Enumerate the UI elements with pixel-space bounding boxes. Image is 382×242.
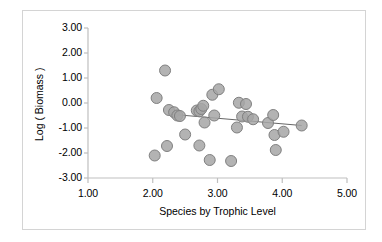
x-tick-label: 5.00 xyxy=(322,187,372,199)
y-tick-label: -2.00 xyxy=(40,146,82,158)
y-tick-label: 1.00 xyxy=(40,71,82,83)
x-tick-label: 2.00 xyxy=(128,187,178,199)
y-tick-label: 2.00 xyxy=(40,46,82,58)
data-points xyxy=(149,65,307,167)
y-tick-label: -3.00 xyxy=(40,171,82,183)
y-tick-label: -1.00 xyxy=(40,121,82,133)
x-axis-label: Species by Trophic Level xyxy=(128,205,308,217)
y-axis-label: Log ( Biomass ) xyxy=(33,67,45,141)
x-tick-label: 1.00 xyxy=(63,187,113,199)
x-tick-label: 4.00 xyxy=(257,187,307,199)
y-tick-label: 0.00 xyxy=(40,96,82,108)
y-tick-label: 3.00 xyxy=(40,21,82,33)
axis-lines xyxy=(88,28,347,178)
x-tick-label: 3.00 xyxy=(193,187,243,199)
